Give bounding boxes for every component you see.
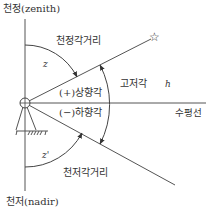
nadir-distance-label: 천저각거리	[63, 167, 108, 178]
elevation-var: h	[165, 79, 171, 89]
elevation-down-label: (−)하향각	[59, 106, 102, 118]
nadir-distance-arc	[25, 133, 82, 167]
horizon-label: 수평선	[175, 107, 202, 118]
zenith-distance-arc	[25, 45, 77, 77]
zenith-label: 천정(zenith)	[3, 3, 60, 14]
zenith-distance-label: 천정각거리	[56, 35, 101, 46]
angle-diagram: 천정(zenith) 수평선 ☆ 천정각거리 z 천저각거리 z' 고저각 h …	[0, 0, 214, 215]
elevation-up-label: (+)상향각	[59, 87, 102, 98]
zenith-var: z	[42, 59, 48, 69]
elevation-arc	[100, 65, 110, 144]
elevation-label: 고저각	[120, 78, 147, 89]
nadir-label: 천저(nadir)	[6, 196, 59, 207]
star-icon: ☆	[149, 30, 160, 44]
ground-hatch	[16, 131, 48, 135]
nadir-var: z'	[41, 150, 49, 160]
